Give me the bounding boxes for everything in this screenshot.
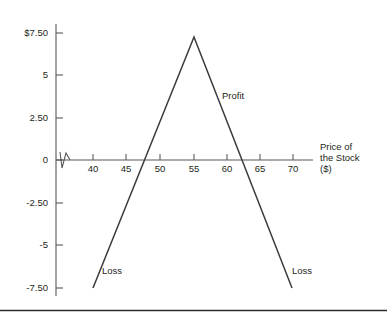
- y-tick-label-7-50: $7.50: [2, 27, 48, 39]
- y-tick-label-2-50: 2.50: [2, 112, 48, 124]
- x-tick-label-65: 65: [247, 163, 273, 175]
- x-tick-label-50: 50: [147, 163, 173, 175]
- annotation-profit: Profit: [222, 90, 244, 102]
- y-tick-label-neg-2-50: -2.50: [2, 197, 48, 209]
- x-tick-label-40: 40: [80, 163, 106, 175]
- x-axis-title-line-3: ($): [320, 163, 387, 175]
- x-tick-label-55: 55: [181, 163, 207, 175]
- y-tick-label-0: 0: [2, 154, 48, 166]
- x-tick-label-60: 60: [214, 163, 240, 175]
- x-tick-label-45: 45: [113, 163, 139, 175]
- x-tick-label-70: 70: [280, 163, 306, 175]
- y-tick-label-5: 5: [2, 69, 48, 81]
- y-tick-label-neg-5: -5: [2, 239, 48, 251]
- x-axis-title-line-1: Price of: [320, 141, 387, 153]
- x-axis-title-line-2: the Stock: [320, 152, 387, 164]
- annotation-loss-left: Loss: [102, 265, 122, 277]
- annotation-loss-right: Loss: [292, 265, 312, 277]
- y-tick-label-neg-7-50: -7.50: [2, 282, 48, 294]
- profit-loss-chart: $7.50 5 2.50 0 -2.50 -5 -7.50 40 45 50 5…: [0, 0, 387, 322]
